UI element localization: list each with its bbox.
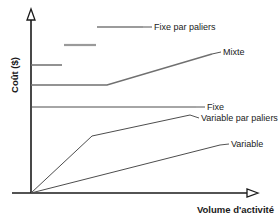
series-mixte: Mixte (31, 47, 245, 85)
leader-line-variable-par-paliers (190, 115, 199, 118)
y-axis-arrowhead-icon (27, 9, 35, 20)
mixte-line (31, 54, 212, 85)
cost-behaviour-chart: Coût ($) Volume d'activité Fixe par pali… (0, 0, 279, 219)
variable-par-paliers-line (31, 115, 190, 193)
series-label-mixte: Mixte (223, 47, 245, 57)
leader-line-mixte (212, 52, 221, 54)
x-axis-title: Volume d'activité (197, 204, 274, 215)
x-axis-arrowhead-icon (247, 189, 258, 197)
variable-line (31, 145, 220, 193)
chart-canvas: Coût ($) Volume d'activité Fixe par pali… (0, 0, 279, 219)
leader-line-variable (220, 144, 229, 145)
series-fixe: Fixe (31, 102, 224, 112)
series-label-fixe-par-paliers: Fixe par paliers (154, 22, 216, 32)
series-variable: Variable (31, 139, 263, 193)
series-label-variable-par-paliers: Variable par paliers (201, 113, 278, 123)
series-label-fixe: Fixe (207, 102, 224, 112)
series-label-variable: Variable (231, 139, 263, 149)
y-axis-title: Coût ($) (9, 57, 20, 93)
series-variable-par-paliers: Variable par paliers (31, 113, 278, 193)
series-fixe-par-paliers: Fixe par paliers (31, 22, 216, 65)
